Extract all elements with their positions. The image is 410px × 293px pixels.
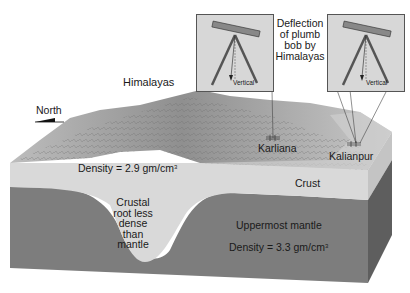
kalianpur-label: Kalianpur — [329, 151, 373, 162]
vertical-label-right: Vertical — [366, 77, 387, 88]
karliana-label: Karliana — [258, 143, 297, 154]
vertical-label-left: Vertical — [233, 77, 254, 88]
mantle-density-label: Density = 3.3 gm/cm3 — [229, 242, 328, 253]
deflection-caption: Deflection of plumb bob by Himalayas — [274, 18, 326, 62]
inset-karliana-plumb-bob: Vertical — [196, 14, 274, 92]
north-arrow-icon — [35, 118, 55, 122]
crust-density-label: Density = 2.9 gm/cm3 — [78, 163, 177, 174]
inset-kalianpur-plumb-bob: Vertical — [327, 14, 405, 92]
mantle-label: Uppermost mantle — [236, 220, 322, 231]
crustal-root-label: Crustal root less dense than mantle — [108, 197, 158, 250]
himalayas-label: Himalayas — [123, 77, 174, 88]
crust-label: Crust — [295, 178, 320, 189]
north-label: North — [36, 105, 62, 116]
